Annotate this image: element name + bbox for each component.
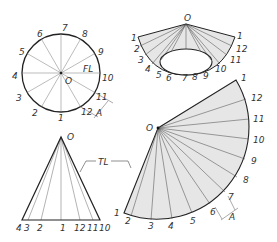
pr-9: 9: [203, 71, 209, 81]
pt-10: 10: [102, 73, 114, 83]
pt-9: 9: [98, 47, 104, 57]
fb-4: 4: [16, 223, 22, 233]
pl-6: 6: [166, 73, 172, 83]
dv-12: 12: [251, 93, 263, 103]
development-pattern: O 1 2 3 4 5 6 7 8 9 10 11 12 1 A: [114, 73, 265, 231]
pl-4: 4: [145, 64, 151, 74]
dv-10: 10: [253, 135, 265, 145]
pr-12: 12: [236, 44, 248, 54]
dv-9: 9: [251, 156, 257, 166]
dv-1: 1: [114, 208, 120, 218]
dv-6: 6: [210, 207, 216, 217]
cone-development-drawing: O FL A 1 2 3 4 5 6 7 8 9 10 11 12: [0, 0, 277, 242]
tl-label: TL: [98, 157, 109, 167]
fb-3: 3: [24, 223, 30, 233]
pt-8: 8: [82, 29, 88, 39]
fb-10: 10: [99, 223, 111, 233]
top-view: O FL A 1 2 3 4 5 6 7 8 9 10 11 12: [12, 23, 114, 123]
pt-7: 7: [62, 23, 68, 33]
pt-11: 11: [96, 92, 107, 102]
dv-4: 4: [168, 221, 174, 231]
pl-8: 8: [192, 72, 198, 82]
apex-label: O: [184, 13, 191, 23]
dv-7: 7: [228, 192, 234, 202]
fb-1: 1: [60, 223, 66, 233]
fb-2: 2: [37, 223, 43, 233]
pl-5: 5: [156, 70, 162, 80]
fb-12: 12: [74, 223, 86, 233]
pr-10: 10: [215, 64, 227, 74]
dev-dim-a: A: [228, 212, 235, 222]
center-label-o: O: [65, 76, 72, 86]
pt-6: 6: [37, 29, 43, 39]
pt-5: 5: [19, 47, 25, 57]
pl-3: 3: [138, 55, 144, 65]
dv-3: 3: [148, 221, 154, 231]
pl-7: 7: [182, 73, 188, 83]
pl-1: 1: [131, 33, 137, 43]
fb-11: 11: [87, 223, 98, 233]
dev-apex-label: O: [146, 123, 153, 133]
pt-12: 12: [81, 107, 93, 117]
pt-4: 4: [12, 71, 18, 81]
pt-3: 3: [16, 93, 22, 103]
dim-a-label: A: [95, 108, 102, 118]
dv-8: 8: [243, 175, 249, 185]
pt-2: 2: [32, 108, 38, 118]
pr-1: 1: [237, 31, 243, 41]
pr-11: 11: [230, 55, 241, 65]
front-apex-label: O: [67, 132, 74, 142]
pt-1: 1: [58, 113, 64, 123]
dv-1-end: 1: [241, 73, 247, 83]
dv-5: 5: [190, 216, 196, 226]
dv-2: 2: [125, 216, 131, 226]
pl-2: 2: [134, 44, 140, 54]
pictorial-cone: O 1 2 3 4 5 6 7 8 1 12 11 10 9: [131, 13, 248, 83]
fl-label: FL: [83, 64, 93, 74]
dv-11: 11: [253, 114, 264, 124]
